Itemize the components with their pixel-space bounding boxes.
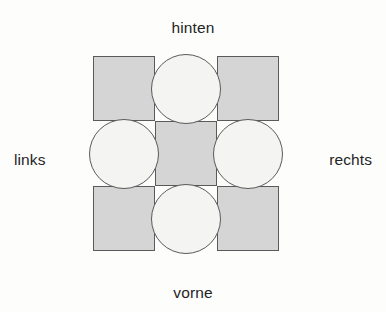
- square-shape: [93, 186, 155, 251]
- label-vorne: vorne: [0, 285, 386, 301]
- shape-grid: [93, 56, 279, 251]
- cell-middle-left: [93, 121, 155, 186]
- cell-back-right: [217, 56, 279, 121]
- square-shape: [217, 186, 279, 251]
- cell-back-center: [155, 56, 217, 121]
- cell-front-right: [217, 186, 279, 251]
- square-shape: [155, 121, 217, 186]
- label-rechts: rechts: [329, 152, 372, 168]
- label-hinten: hinten: [0, 20, 386, 36]
- diagram-canvas: hinten links rechts vorne: [0, 0, 386, 312]
- circle-shape: [89, 119, 159, 189]
- cell-middle-center: [155, 121, 217, 186]
- label-links: links: [14, 152, 46, 168]
- cell-back-left: [93, 56, 155, 121]
- circle-shape: [213, 119, 283, 189]
- cell-front-left: [93, 186, 155, 251]
- square-shape: [217, 56, 279, 121]
- cell-middle-right: [217, 121, 279, 186]
- cell-front-center: [155, 186, 217, 251]
- square-shape: [93, 56, 155, 121]
- circle-shape: [151, 184, 221, 254]
- circle-shape: [151, 54, 221, 124]
